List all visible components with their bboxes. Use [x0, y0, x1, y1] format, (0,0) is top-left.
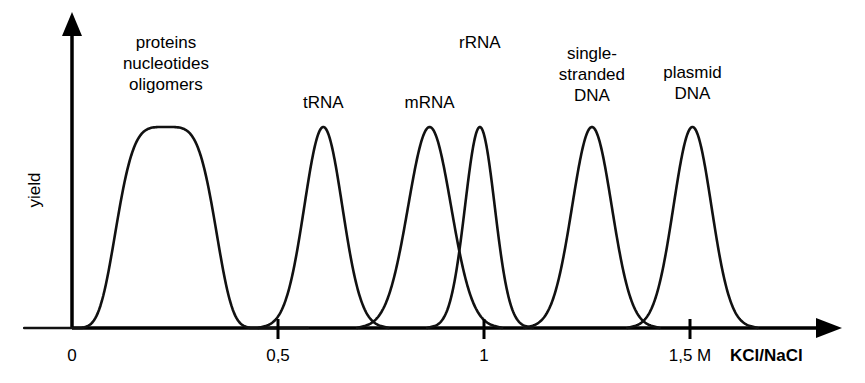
- peak-curve-1: [258, 127, 388, 328]
- y-axis-arrowhead: [62, 12, 82, 36]
- y-axis-title: yield: [25, 165, 45, 215]
- x-axis-arrowhead: [816, 318, 842, 338]
- x-tick-label-2: 1: [479, 346, 488, 366]
- peak-curves: [24, 127, 757, 328]
- peak-label-1: tRNA: [303, 92, 344, 113]
- peak-label-3: rRNA: [459, 32, 501, 53]
- peak-label-0: proteins nucleotides oligomers: [123, 32, 209, 95]
- x-axis-title: KCl/NaCl: [730, 346, 803, 366]
- x-tick-label-0: 0: [67, 346, 76, 366]
- peak-label-4: single- stranded DNA: [559, 43, 625, 106]
- peak-curve-5: [627, 127, 757, 328]
- peak-curve-4: [524, 127, 659, 328]
- peak-curve-2: [357, 127, 502, 328]
- x-tick-label-1: 0,5: [266, 346, 290, 366]
- peak-curve-0: [24, 127, 307, 328]
- peak-label-5: plasmid DNA: [663, 62, 722, 104]
- chart-figure: yield KCl/NaCl 00,511,5 M proteins nucle…: [0, 0, 865, 383]
- peak-label-2: mRNA: [405, 92, 455, 113]
- x-tick-label-3: 1,5 M: [669, 346, 712, 366]
